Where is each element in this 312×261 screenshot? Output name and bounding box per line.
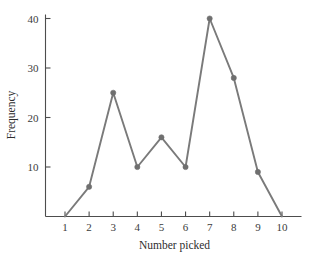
y-axis-tick-label: 30 [28, 62, 40, 74]
y-axis-tick-label: 20 [28, 112, 40, 124]
x-axis-tick-label: 8 [231, 221, 237, 233]
x-axis-tick-label: 7 [207, 221, 213, 233]
data-point-marker [231, 75, 236, 80]
x-axis-tick-label: 4 [135, 221, 141, 233]
y-axis-tick-label: 40 [28, 13, 40, 25]
data-point-marker [87, 184, 92, 189]
data-point-marker [111, 90, 116, 95]
y-axis-tick-label: 10 [28, 161, 40, 173]
data-point-marker [183, 164, 188, 169]
chart-canvas: 1020304012345678910Number pickedFrequenc… [0, 0, 312, 261]
x-axis-tick-label: 10 [277, 221, 289, 233]
y-axis-title: Frequency [5, 90, 18, 139]
x-axis-tick-label: 3 [110, 221, 116, 233]
x-axis-tick-label: 1 [62, 221, 68, 233]
data-point-marker [159, 135, 164, 140]
x-axis-tick-label: 6 [183, 221, 189, 233]
x-axis-tick-label: 2 [86, 221, 92, 233]
data-point-marker [255, 169, 260, 174]
data-line-frequency [65, 19, 282, 217]
x-axis-tick-label: 9 [255, 221, 261, 233]
data-point-marker [207, 16, 212, 21]
x-axis-tick-label: 5 [159, 221, 165, 233]
data-point-marker [135, 164, 140, 169]
frequency-line-chart: 1020304012345678910Number pickedFrequenc… [0, 0, 312, 261]
x-axis-title: Number picked [139, 239, 210, 252]
